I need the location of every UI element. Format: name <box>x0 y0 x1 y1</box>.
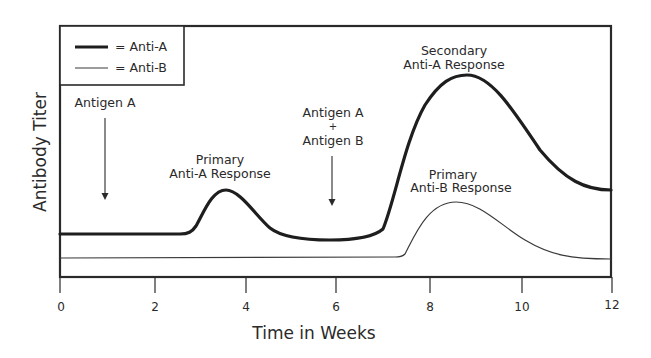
arrow-antigen-ab <box>329 156 336 206</box>
x-axis-label: Time in Weeks <box>251 323 375 343</box>
legend-anti-a-label: = Anti-A <box>115 39 168 54</box>
x-axis <box>60 277 612 293</box>
annotation-primary-a-line2: Anti-A Response <box>169 166 271 181</box>
arrow-antigen-a <box>102 118 109 200</box>
annotation-primary-a-line1: Primary <box>196 152 245 167</box>
anti-a-series-line <box>60 75 611 240</box>
annotation-secondary-a-line2: Anti-A Response <box>403 57 505 72</box>
annotation-antigen-ab-plus: + <box>329 121 337 132</box>
x-tick-label: 6 <box>332 300 340 314</box>
x-tick-label: 8 <box>426 300 434 314</box>
y-axis-label: Antibody Titer <box>30 92 50 212</box>
x-tick-label: 2 <box>151 300 159 314</box>
annotation-secondary-a-line1: Secondary <box>421 43 488 58</box>
anti-b-series-line <box>60 202 611 259</box>
x-tick-label: 0 <box>57 300 65 314</box>
legend: = Anti-A = Anti-B <box>60 26 184 85</box>
annotation-antigen-ab-line3: Antigen B <box>303 133 364 148</box>
x-tick-label: 12 <box>604 298 619 312</box>
antibody-titer-chart: = Anti-A = Anti-B 0 2 4 6 8 10 12 Time i… <box>0 0 651 358</box>
x-tick-label: 4 <box>242 300 250 314</box>
legend-anti-b-label: = Anti-B <box>115 60 167 75</box>
annotation-antigen-ab-line1: Antigen A <box>303 105 364 120</box>
legend-box <box>60 26 184 85</box>
annotation-antigen-a: Antigen A <box>75 95 136 110</box>
annotation-primary-b-line2: Anti-B Response <box>410 180 512 195</box>
x-tick-label: 10 <box>514 300 529 314</box>
